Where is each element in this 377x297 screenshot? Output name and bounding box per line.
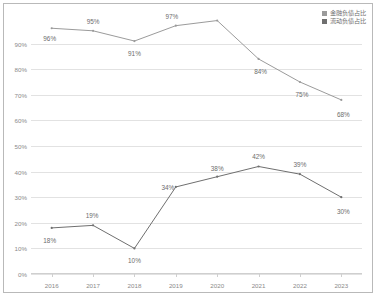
- data-point: [299, 81, 301, 83]
- legend-swatch-icon: [322, 19, 327, 24]
- data-point: [340, 196, 342, 198]
- y-axis-tick: 30%: [15, 194, 27, 201]
- y-axis-tick: 20%: [15, 219, 27, 226]
- x-axis-tick: 2018: [128, 282, 142, 289]
- y-axis-tick: 40%: [15, 168, 27, 175]
- plot-area: 0%10%20%30%40%50%60%70%80%90% 2016201720…: [31, 18, 362, 274]
- data-point: [133, 247, 135, 249]
- x-axis-tick: 2020: [210, 282, 224, 289]
- data-point: [175, 25, 177, 27]
- x-axis-tickmark: [217, 274, 218, 277]
- data-point: [257, 58, 259, 60]
- chart-legend: 金融负债占比流动负债占比: [322, 10, 366, 24]
- x-axis-tickmark: [341, 274, 342, 277]
- x-axis-tickmark: [134, 274, 135, 277]
- data-point: [175, 186, 177, 188]
- x-axis-tickmark: [52, 274, 53, 277]
- y-axis-tick: 80%: [15, 66, 27, 73]
- data-point: [51, 227, 53, 229]
- data-point: [216, 19, 218, 21]
- gridline: [31, 274, 362, 275]
- legend-label: 金融负债占比: [330, 10, 366, 16]
- x-axis-tick: 2022: [293, 282, 307, 289]
- series-line-2: [52, 166, 342, 248]
- x-axis-tick: 2023: [334, 282, 348, 289]
- data-point: [299, 173, 301, 175]
- data-point: [340, 99, 342, 101]
- x-axis-tickmark: [259, 274, 260, 277]
- x-axis-tick: 2019: [169, 282, 183, 289]
- y-axis-tick: 60%: [15, 117, 27, 124]
- data-point: [92, 30, 94, 32]
- legend-label: 流动负债占比: [330, 18, 366, 24]
- y-axis-tick: 0%: [18, 271, 27, 278]
- series-lines: [31, 18, 362, 274]
- data-point: [133, 40, 135, 42]
- data-point: [92, 224, 94, 226]
- x-axis-tickmark: [300, 274, 301, 277]
- data-point: [216, 176, 218, 178]
- y-axis-tick: 70%: [15, 91, 27, 98]
- y-axis-tick: 50%: [15, 143, 27, 150]
- x-axis-tickmark: [93, 274, 94, 277]
- data-point: [257, 165, 259, 167]
- chart-container: 0%10%20%30%40%50%60%70%80%90% 2016201720…: [3, 3, 373, 293]
- legend-swatch-icon: [322, 11, 327, 16]
- y-axis-tick: 10%: [15, 245, 27, 252]
- series-line-1: [52, 21, 342, 100]
- x-axis-tick: 2016: [45, 282, 59, 289]
- x-axis-tick: 2017: [86, 282, 100, 289]
- legend-item-1[interactable]: 金融负债占比: [322, 10, 366, 16]
- x-axis-tickmark: [176, 274, 177, 277]
- x-axis-tick: 2021: [252, 282, 266, 289]
- y-axis-tick: 90%: [15, 40, 27, 47]
- legend-item-2[interactable]: 流动负债占比: [322, 18, 366, 24]
- data-point: [51, 27, 53, 29]
